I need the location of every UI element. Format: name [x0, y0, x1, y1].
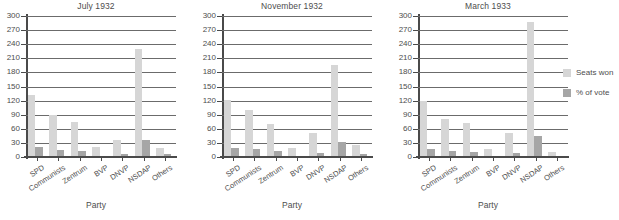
x-axis-tick [101, 156, 102, 161]
x-axis-tick [361, 156, 362, 161]
x-axis-tick [276, 156, 277, 161]
y-axis-tick-label: 0 [386, 153, 412, 161]
y-axis-tick-label: 270 [190, 26, 216, 34]
bar [135, 49, 143, 157]
y-axis-tick-label: 240 [386, 40, 412, 48]
bar [420, 101, 428, 157]
bar [224, 100, 232, 157]
bar [331, 65, 339, 157]
x-axis-tick [340, 156, 341, 161]
y-axis-tick-label: 270 [386, 26, 412, 34]
y-axis-tick-label: 120 [190, 97, 216, 105]
y-axis-tick-label: 300 [0, 12, 20, 20]
bar [505, 133, 513, 157]
y-axis-tick-label: 300 [386, 12, 412, 20]
x-axis-tick [58, 156, 59, 161]
y-axis-tick-label: 60 [190, 125, 216, 133]
y-axis-tick-label: 270 [0, 26, 20, 34]
bar [309, 133, 317, 157]
bar [267, 124, 275, 157]
bar [534, 136, 542, 157]
y-axis-tick-label: 150 [386, 83, 412, 91]
y-axis-tick-label: 30 [190, 139, 216, 147]
chart-panel-november-1932: November 1932 03060901201501802102402703… [196, 0, 388, 220]
y-axis-tick-label: 120 [0, 97, 20, 105]
x-axis-tick [254, 156, 255, 161]
figure-multi-bar-charts: July 1932 0306090120150180210240270300 P… [0, 0, 619, 220]
y-axis-tick-label: 210 [190, 54, 216, 62]
y-axis-tick-label: 180 [190, 68, 216, 76]
chart-legend: Seats won% of vote [563, 68, 619, 108]
x-axis-tick [122, 156, 123, 161]
bar [28, 95, 36, 158]
y-axis-tick-label: 300 [190, 12, 216, 20]
y-axis-tick-label: 90 [386, 111, 412, 119]
legend-label: % of vote [576, 88, 609, 97]
bar [338, 142, 346, 158]
y-axis-tick-label: 180 [0, 68, 20, 76]
y-axis-tick-label: 0 [190, 153, 216, 161]
x-axis-tick [557, 156, 558, 161]
x-axis-tick [536, 156, 537, 161]
plot-area [26, 16, 176, 157]
y-axis-tick-label: 120 [386, 97, 412, 105]
y-axis-tick-label: 90 [0, 111, 20, 119]
x-axis-tick [233, 156, 234, 161]
y-axis-tick-label: 150 [190, 83, 216, 91]
y-axis-tick-label: 60 [386, 125, 412, 133]
x-axis-tick [80, 156, 81, 161]
x-axis-tick [514, 156, 515, 161]
legend-label: Seats won [576, 68, 613, 77]
legend-swatch-icon [563, 89, 571, 97]
y-axis-tick-label: 240 [190, 40, 216, 48]
legend-item: % of vote [563, 88, 619, 97]
y-axis-tick-label: 30 [0, 139, 20, 147]
plot-area [418, 16, 568, 157]
x-axis-tick [165, 156, 166, 161]
x-axis-tick [429, 156, 430, 161]
x-axis-tick [450, 156, 451, 161]
y-axis-tick-label: 30 [386, 139, 412, 147]
bar-group [222, 16, 372, 157]
x-axis-tick [472, 156, 473, 161]
y-axis-tick-label: 210 [0, 54, 20, 62]
y-axis-tick-label: 90 [190, 111, 216, 119]
chart-panel-march-1933: March 1933 0306090120150180210240270300 … [392, 0, 584, 220]
legend-swatch-icon [563, 69, 571, 77]
bar [245, 110, 253, 157]
x-axis-tick [318, 156, 319, 161]
x-axis-title: Party [392, 200, 584, 210]
bar [441, 119, 449, 157]
y-axis-tick-label: 210 [386, 54, 412, 62]
y-axis-tick-label: 0 [0, 153, 20, 161]
x-axis-tick [144, 156, 145, 161]
plot-area [222, 16, 372, 157]
x-axis-title: Party [196, 200, 388, 210]
x-axis-tick [297, 156, 298, 161]
y-axis-tick-label: 150 [0, 83, 20, 91]
legend-item: Seats won [563, 68, 619, 77]
bar-group [418, 16, 568, 157]
y-axis-tick-label: 240 [0, 40, 20, 48]
y-axis-tick-label: 60 [0, 125, 20, 133]
bar [71, 122, 79, 157]
x-axis-tick [493, 156, 494, 161]
bar [142, 140, 150, 157]
bar [113, 140, 121, 157]
bar [463, 123, 471, 157]
x-axis-title: Party [0, 200, 192, 210]
bar-group [26, 16, 176, 157]
x-axis-tick [37, 156, 38, 161]
chart-panel-july-1932: July 1932 0306090120150180210240270300 P… [0, 0, 192, 220]
bar [527, 22, 535, 157]
bar [49, 115, 57, 157]
y-axis-tick-label: 180 [386, 68, 412, 76]
